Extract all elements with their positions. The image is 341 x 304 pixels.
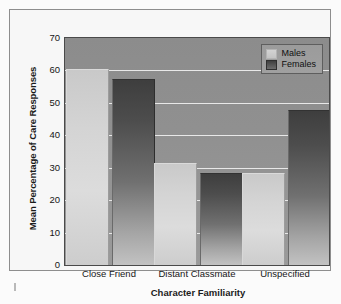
y-axis-tick-labels: 010203040506070 xyxy=(32,37,60,266)
x-axis-tick-labels: Close FriendDistant ClassmateUnspecified xyxy=(64,268,330,284)
bar-males-distant-classmate xyxy=(154,163,197,265)
y-axis-tick-label: 40 xyxy=(32,131,60,141)
bar-males-close-friend xyxy=(66,69,109,265)
legend-swatch-females-icon xyxy=(266,60,277,70)
y-axis-tick-label: 70 xyxy=(32,33,60,43)
legend-swatch-males-icon xyxy=(266,49,277,59)
y-axis-tick-label: 30 xyxy=(32,163,60,173)
y-axis-tick-label: 20 xyxy=(32,195,60,205)
page-corner-mark xyxy=(14,283,16,291)
y-axis-tick-label: 60 xyxy=(32,66,60,76)
bar-females-unspecified xyxy=(288,110,331,265)
x-axis-title: Character Familiarity xyxy=(65,287,331,298)
legend-item-females: Females xyxy=(266,59,316,70)
figure-root: Mean Percentage of Care Responses 010203… xyxy=(0,0,341,304)
legend: Males Females xyxy=(261,44,323,74)
legend-label-females: Females xyxy=(281,59,316,70)
bar-females-close-friend xyxy=(112,79,155,265)
bar-females-distant-classmate xyxy=(200,173,243,265)
bar-males-unspecified xyxy=(242,173,285,265)
legend-item-males: Males xyxy=(266,48,316,59)
y-axis-tick-label: 10 xyxy=(32,228,60,238)
plot-area: Males Females xyxy=(64,37,330,266)
y-axis-tick-label: 50 xyxy=(32,98,60,108)
x-axis-tick-label: Unspecified xyxy=(225,268,341,279)
legend-label-males: Males xyxy=(281,48,305,59)
figure-frame: Mean Percentage of Care Responses 010203… xyxy=(9,9,331,271)
